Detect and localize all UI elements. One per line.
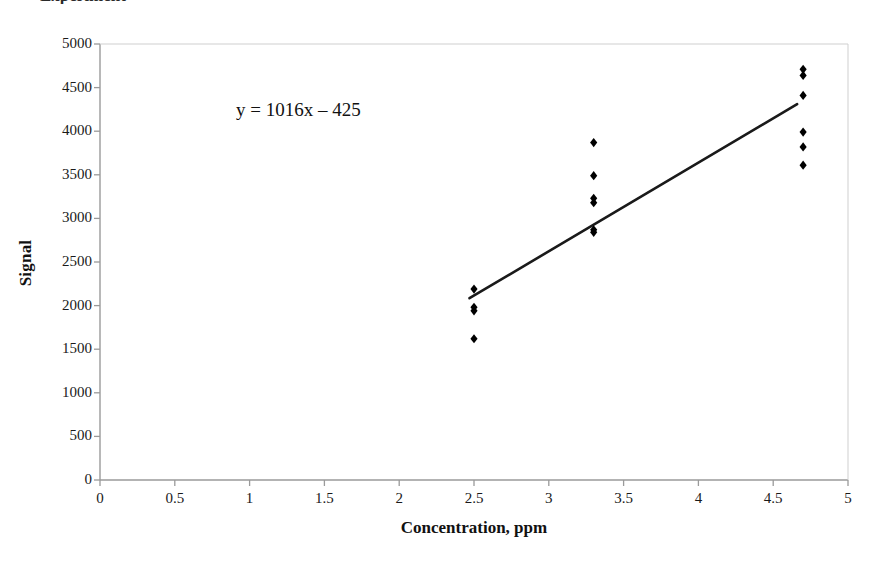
data-point-series (470, 65, 806, 344)
data-point-marker (800, 161, 807, 170)
data-point-marker (590, 171, 597, 180)
data-point-marker (800, 142, 807, 151)
axis-frame (100, 44, 848, 480)
data-point-marker (470, 334, 477, 343)
regression-equation-annotation: y = 1016x – 425 (236, 99, 361, 121)
plot-area (0, 0, 875, 562)
data-point-marker (590, 138, 597, 147)
chart-figure: Experiment Signal Concentration, ppm 050… (0, 0, 875, 562)
data-point-marker (470, 284, 477, 293)
data-point-marker (800, 127, 807, 136)
trend-line (470, 104, 798, 298)
data-point-marker (800, 71, 807, 80)
data-point-marker (800, 91, 807, 100)
axis-tick-marks (94, 44, 848, 486)
